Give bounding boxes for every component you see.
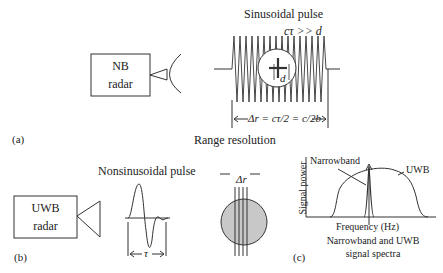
uwb-label: UWB xyxy=(406,165,429,175)
x-axis-label: Frequency (Hz) xyxy=(336,222,399,232)
uwb-radar-label-line2: radar xyxy=(14,220,77,232)
uwb-target-circle xyxy=(221,199,267,245)
panel-c-tag: (c) xyxy=(293,252,305,263)
uwb-radar-label-line1: UWB xyxy=(14,202,77,214)
nonsinusoidal-pulse-title: Nonsinusoidal pulse xyxy=(98,165,196,177)
narrowband-label: Narrowband xyxy=(310,156,360,166)
range-resolution-caption: Range resolution xyxy=(194,134,276,146)
resolution-equation: Δr = cτ/2 = c/2b xyxy=(248,113,321,124)
panel-b-tag: (b) xyxy=(14,252,27,263)
nb-radar-label-line2: radar xyxy=(91,78,150,90)
nb-dish-icon xyxy=(170,54,182,93)
sinusoidal-pulse-title: Sinusoidal pulse xyxy=(244,8,323,20)
nb-radar-label-line1: NB xyxy=(91,60,150,72)
panel-a-tag: (a) xyxy=(12,134,24,145)
spectra-caption-line2: signal spectra xyxy=(318,249,428,259)
target-size-label: d xyxy=(280,73,286,84)
pulse-width-label: τ xyxy=(144,248,148,259)
spectra-caption-line1: Narrowband and UWB xyxy=(318,236,428,246)
uwb-target-resolution-label: Δr xyxy=(236,174,247,185)
nb-antenna-icon xyxy=(150,69,167,80)
uwb-spectrum-curve xyxy=(330,168,428,217)
condition-label: cτ >> d xyxy=(284,25,322,37)
uwb-antenna-icon xyxy=(77,201,100,237)
nonsinusoidal-pulse-wave xyxy=(128,184,168,247)
y-axis-label: Signal power xyxy=(298,153,308,223)
